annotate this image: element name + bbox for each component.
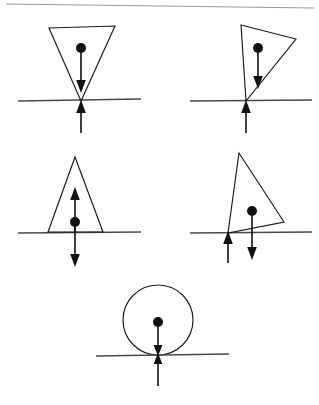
ground-line <box>18 99 141 101</box>
diagram-canvas <box>0 0 319 405</box>
triangle-outline <box>241 25 296 101</box>
arrow-head-up <box>70 187 80 200</box>
normal-force-up <box>154 353 163 386</box>
triangle-outline <box>228 153 284 233</box>
ground-line <box>190 232 312 233</box>
weight-force-down <box>247 213 257 260</box>
center-of-mass-dot <box>153 317 163 327</box>
normal-force-up <box>223 231 233 263</box>
top-rule-divider <box>6 4 314 8</box>
figure-2-tilted-triangle <box>190 25 312 133</box>
figure-4-tilted-triangle-pivot <box>190 153 312 263</box>
center-of-mass-dot <box>253 43 263 53</box>
center-of-mass-dot <box>76 43 86 53</box>
weight-force-down <box>154 324 163 356</box>
normal-force-up <box>241 100 251 133</box>
weight-force-down <box>253 50 263 89</box>
normal-force-up <box>76 100 86 133</box>
center-of-mass-dot <box>70 217 80 227</box>
arrow-head-up <box>241 100 251 113</box>
figure-sheet <box>0 0 319 405</box>
center-of-mass-dot <box>247 206 257 216</box>
figure-5-circle <box>96 285 229 386</box>
weight-force-down <box>76 50 86 93</box>
ground-line <box>190 100 312 101</box>
figure-3-upright-triangle <box>18 157 141 267</box>
arrow-head-down <box>76 80 86 93</box>
arrow-head-down <box>247 247 257 260</box>
arrow-head-up <box>76 100 86 113</box>
arrow-head-down <box>70 254 80 267</box>
figure-1-inverted-triangle <box>18 26 141 133</box>
force-arrow-down <box>70 222 80 267</box>
